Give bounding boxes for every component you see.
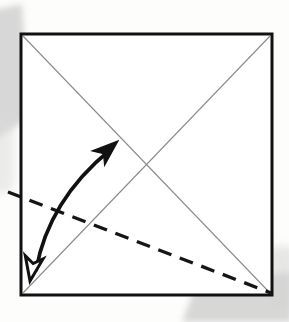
diagram-canvas	[0, 0, 289, 322]
origami-diagram-figure: Origami fold step diagram Square sheet w…	[0, 0, 289, 322]
shadow-left-edge-lower	[0, 115, 14, 193]
